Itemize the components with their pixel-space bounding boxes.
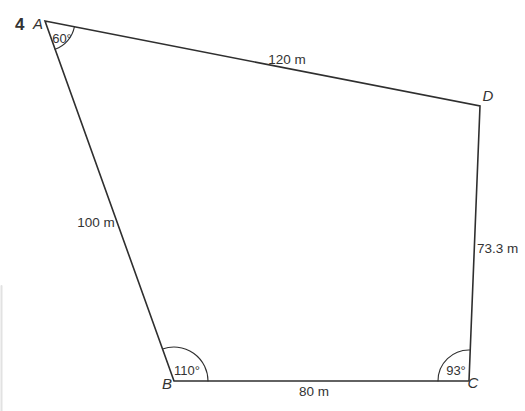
side-label-ab: 100 m <box>77 215 115 230</box>
side-label-bc: 80 m <box>299 384 329 399</box>
problem-number: 4 <box>15 15 25 34</box>
angle-label-b: 110° <box>174 363 200 378</box>
vertex-label-d: D <box>483 87 494 104</box>
vertex-label-c: C <box>468 374 479 391</box>
worksheet-page: 4 A B C D 60° 110° 93° 120 m 100 m 80 m … <box>0 0 525 411</box>
angle-label-c: 93° <box>446 363 466 378</box>
geometry-diagram-canvas: 4 A B C D 60° 110° 93° 120 m 100 m 80 m … <box>0 0 525 411</box>
vertex-label-a: A <box>32 15 43 32</box>
quadrilateral-outline <box>45 21 480 381</box>
side-label-cd: 73.3 m <box>477 241 518 256</box>
angle-label-a: 60° <box>52 31 72 46</box>
vertex-label-b: B <box>162 375 172 392</box>
side-label-ad: 120 m <box>268 52 306 67</box>
